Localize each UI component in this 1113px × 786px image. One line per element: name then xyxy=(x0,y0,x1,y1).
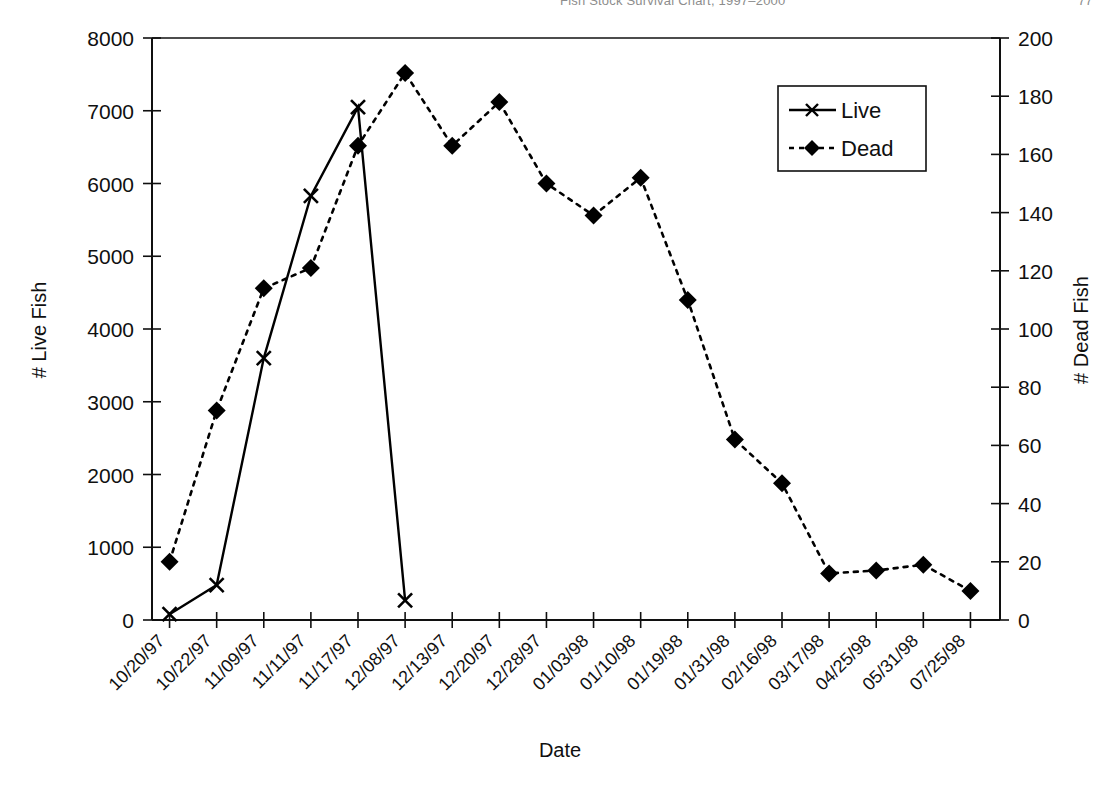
data-point-marker xyxy=(349,137,367,155)
running-head-title: Fish Stock Survival Chart, 1997–2000 xyxy=(560,0,785,8)
y-tick-label-left: 0 xyxy=(122,609,134,632)
data-point-marker xyxy=(867,562,885,580)
data-point-marker xyxy=(820,564,838,582)
y-tick-label-left: 2000 xyxy=(87,464,134,487)
data-point-marker xyxy=(255,279,273,297)
y-tick-label-left: 4000 xyxy=(87,318,134,341)
data-point-marker xyxy=(537,175,555,193)
data-point-marker xyxy=(961,582,979,600)
y-tick-label-right: 200 xyxy=(1018,27,1053,50)
data-point-marker xyxy=(208,401,226,419)
legend-label-live: Live xyxy=(841,98,881,123)
y-tick-label-left: 6000 xyxy=(87,173,134,196)
data-point-marker xyxy=(914,556,932,574)
y-axis-left: 010002000300040005000600070008000 xyxy=(87,27,161,632)
x-axis-title: Date xyxy=(539,739,581,761)
data-point-marker xyxy=(726,431,744,449)
y-tick-label-right: 180 xyxy=(1018,85,1053,108)
y-tick-label-left: 7000 xyxy=(87,100,134,123)
legend-label-dead: Dead xyxy=(841,136,894,161)
data-point-marker xyxy=(304,189,318,203)
y-tick-label-right: 80 xyxy=(1018,376,1041,399)
legend: Live Dead xyxy=(778,86,926,171)
y-tick-label-right: 60 xyxy=(1018,434,1041,457)
y-axis-left-title: # Live Fish xyxy=(28,282,50,379)
y-tick-label-left: 8000 xyxy=(87,27,134,50)
y-tick-label-right: 140 xyxy=(1018,202,1053,225)
x-axis: 10/20/9710/22/9711/09/9711/11/9711/17/97… xyxy=(105,612,971,694)
series-live xyxy=(163,100,413,621)
line-chart: 010002000300040005000600070008000 020406… xyxy=(0,0,1113,786)
y-tick-label-right: 0 xyxy=(1018,609,1030,632)
data-point-marker xyxy=(161,553,179,571)
y-tick-label-right: 40 xyxy=(1018,493,1041,516)
y-tick-label-right: 120 xyxy=(1018,260,1053,283)
series-line-live xyxy=(170,107,406,614)
y-tick-label-right: 160 xyxy=(1018,143,1053,166)
y-tick-label-left: 5000 xyxy=(87,245,134,268)
y-tick-label-left: 3000 xyxy=(87,391,134,414)
running-head-page-number: 77 xyxy=(1078,0,1092,8)
data-point-marker xyxy=(396,64,414,82)
y-tick-label-left: 1000 xyxy=(87,536,134,559)
y-axis-right-title: # Dead Fish xyxy=(1070,276,1092,384)
y-tick-label-right: 100 xyxy=(1018,318,1053,341)
running-head: Fish Stock Survival Chart, 1997–2000 77 xyxy=(0,0,1113,14)
figure-container: Fish Stock Survival Chart, 1997–2000 77 … xyxy=(0,0,1113,786)
y-tick-label-right: 20 xyxy=(1018,551,1041,574)
data-point-marker xyxy=(679,291,697,309)
data-point-marker xyxy=(302,259,320,277)
